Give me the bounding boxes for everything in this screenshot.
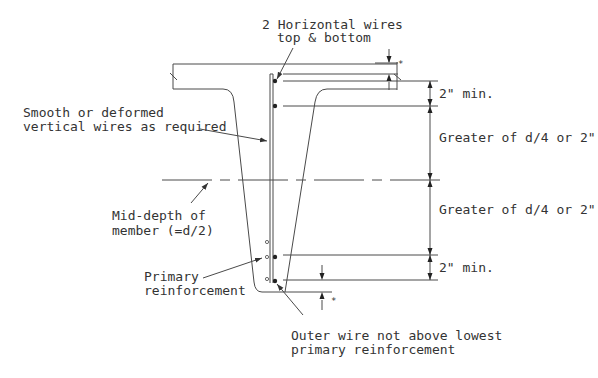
top-cover-dimension [387,49,392,90]
primary-bar-3 [265,277,268,280]
vertical-wire [270,74,273,283]
primary-bar-2 [265,255,268,258]
extension-lines [283,63,438,292]
label-outer-wire-1: Outer wire not above lowest [291,328,502,343]
label-vertical-wires-1: Smooth or deformed [23,105,164,120]
label-primary-2: reinforcement [144,283,246,298]
beam-section-outline [170,62,401,292]
star-top: * [398,59,403,69]
label-top-wires-2: top & bottom [277,30,371,45]
top-wire-dot-1 [273,79,277,83]
dim-lower-greater: Greater of d/4 or 2" [439,202,596,217]
label-mid-depth-2: member (=d/2) [112,223,214,238]
bottom-cover-dimension [320,265,325,310]
top-wire-dot-2 [273,104,277,108]
star-bottom: * [331,296,336,306]
dim-bottom-min: 2" min. [439,260,494,275]
leader-mid-depth [191,183,208,203]
bottom-wire-dot-1 [273,255,277,259]
dim-top-min: 2" min. [439,86,494,101]
beam-reinforcement-diagram: 2 Horizontal wires top & bottom Smooth o… [0,0,598,378]
bottom-wire-dot-2 [273,279,277,283]
label-outer-wire-2: primary reinforcement [291,342,455,357]
label-mid-depth-1: Mid-depth of [112,208,206,223]
label-vertical-wires-2: vertical wires as required [23,119,227,134]
primary-bar-1 [265,240,268,243]
dim-upper-greater: Greater of d/4 or 2" [439,130,596,145]
label-primary-1: Primary [144,269,199,284]
leader-outer-wire [277,284,303,315]
